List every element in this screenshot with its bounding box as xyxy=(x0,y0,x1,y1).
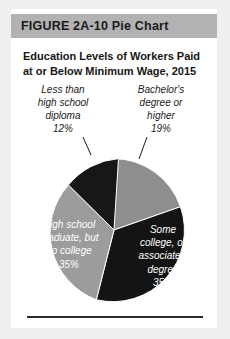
slice-label-some-college: Some college, or associate's degree 35% xyxy=(115,223,211,289)
figure-header-band: FIGURE 2A-10 Pie Chart xyxy=(11,14,217,38)
figure-card: FIGURE 2A-10 Pie Chart Education Levels … xyxy=(11,9,217,328)
leader-line-less-than-high-school xyxy=(83,137,91,155)
callout-percent: 19% xyxy=(115,122,207,135)
callout-line-1: Bachelor's xyxy=(115,83,207,96)
callout-line-3: diploma xyxy=(19,109,107,122)
slice-label-line-2: college, or xyxy=(115,236,211,249)
callout-less-than-high-school-diploma: Less than high school diploma 12% xyxy=(19,83,107,135)
callout-line-3: higher xyxy=(115,109,207,122)
slice-label-line-1: High school xyxy=(17,218,121,231)
slice-label-line-4: degree xyxy=(115,263,211,276)
leader-line-bachelors-degree xyxy=(139,137,147,159)
callout-bachelors-degree-or-higher: Bachelor's degree or higher 19% xyxy=(115,83,207,135)
slice-label-percent: 35% xyxy=(17,258,121,271)
slice-label-high-school-graduate: High school graduate, but no college 35% xyxy=(17,218,121,271)
pie-chart: Less than high school diploma 12% Bachel… xyxy=(11,71,217,311)
slice-label-line-3: no college xyxy=(17,244,121,257)
callout-line-2: degree or xyxy=(115,96,207,109)
callout-line-1: Less than xyxy=(19,83,107,96)
figure-bottom-rule xyxy=(27,316,203,318)
callout-percent: 12% xyxy=(19,122,107,135)
slice-label-line-3: associate's xyxy=(115,249,211,262)
slice-label-percent: 35% xyxy=(115,276,211,289)
slice-label-line-1: Some xyxy=(115,223,211,236)
callout-line-2: high school xyxy=(19,96,107,109)
figure-header-title: FIGURE 2A-10 Pie Chart xyxy=(21,19,169,33)
slice-label-line-2: graduate, but xyxy=(17,231,121,244)
